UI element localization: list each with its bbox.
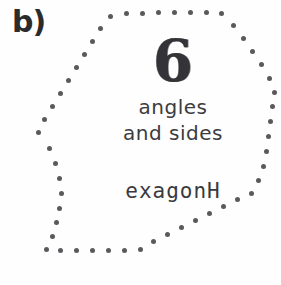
- hexagon-border-dot: [90, 248, 95, 253]
- hexagon-border-dot: [57, 206, 62, 211]
- shape-name-scrambled: exagonH: [78, 179, 268, 203]
- hexagon-border-dot: [106, 248, 111, 253]
- hexagon-border-dot: [66, 78, 71, 83]
- hexagon-border-dot: [47, 146, 52, 151]
- hexagon-border-dot: [53, 161, 58, 166]
- hexagon-border-dot: [108, 14, 113, 19]
- hexagon-border-dot: [231, 23, 236, 28]
- hexagon-border-dot: [74, 248, 79, 253]
- hexagon-border-dot: [272, 90, 277, 95]
- hexagon-border-dot: [44, 247, 49, 252]
- hexagon-border-dot: [59, 191, 64, 196]
- hexagon-border-dot: [172, 10, 177, 15]
- worksheet-item-panel: b) 6 angles and sides exagonH: [0, 0, 281, 285]
- hexagon-content-stack: 6 angles and sides exagonH: [78, 34, 268, 203]
- hexagon-border-dot: [151, 239, 156, 244]
- hexagon-border-dot: [50, 234, 55, 239]
- hexagon-border-dot: [140, 11, 145, 16]
- hexagon-border-dot: [42, 117, 47, 122]
- hexagon-border-dot: [57, 176, 62, 181]
- hexagon-border-dot: [179, 225, 184, 230]
- hexagon-border-dot: [54, 220, 59, 225]
- hexagon-border-dot: [188, 10, 193, 15]
- hexagon-border-dot: [156, 10, 161, 15]
- hexagon-border-dot: [207, 211, 212, 216]
- hexagon-border-dot: [270, 104, 275, 109]
- hexagon-border-dot: [58, 91, 63, 96]
- descriptor-line-and-sides: and sides: [78, 121, 268, 145]
- hexagon-border-dot: [165, 232, 170, 237]
- hexagon-border-dot: [221, 204, 226, 209]
- hexagon-border-dot: [36, 130, 41, 135]
- hexagon-border-dot: [58, 248, 63, 253]
- hexagon-border-dot: [124, 11, 129, 16]
- hexagon-border-dot: [138, 247, 143, 252]
- side-count-number: 6: [78, 34, 268, 89]
- hexagon-border-dot: [50, 104, 55, 109]
- hexagon-border-dot: [122, 248, 127, 253]
- hexagon-border-dot: [219, 11, 224, 16]
- hexagon-border-dot: [193, 218, 198, 223]
- hexagon-border-dot: [98, 26, 103, 31]
- hexagon-border-dot: [204, 10, 209, 15]
- descriptor-line-angles: angles: [78, 95, 268, 119]
- hexagon-border-dot: [268, 119, 273, 124]
